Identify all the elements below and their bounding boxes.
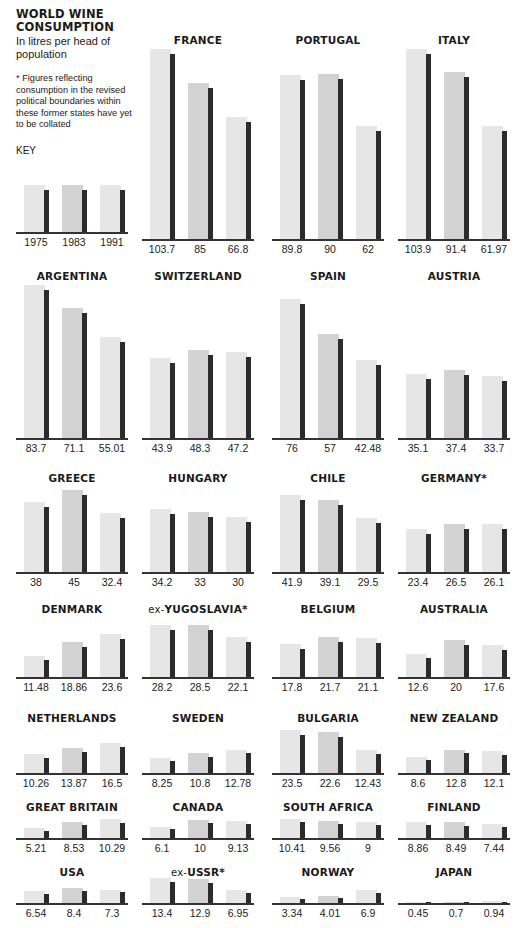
value-label: 13.4 [144,907,180,919]
value-label: 0.94 [476,907,512,919]
bar-shadow [170,882,175,903]
bar-1991 [226,890,247,903]
bar-shadow [82,891,87,903]
bar-1991 [356,890,377,903]
bar-shadow [208,883,213,903]
value-label: 3.34 [274,907,310,919]
bar-shadow [44,894,49,903]
country-title-name: USSR* [187,866,225,878]
country-panel-ex-ussr: ex-USSR*13.412.96.95 [142,0,254,928]
country-title-prefix: ex- [171,867,187,878]
country-panel-usa: USA6.548.47.3 [16,0,128,928]
value-label: 0.45 [400,907,436,919]
baseline [16,903,128,905]
value-label: 6.9 [350,907,386,919]
value-label: 7.3 [94,907,130,919]
bar-1991 [100,890,121,903]
bar-1975 [24,891,45,903]
bar-shadow [120,892,125,903]
value-label: 8.4 [56,907,92,919]
bar-1983 [318,896,339,903]
baseline [398,903,510,905]
country-panel-japan: JAPAN0.450.70.94 [398,0,510,928]
bar-1983 [188,879,209,903]
value-label: 6.95 [220,907,256,919]
country-panel-norway: NORWAY3.344.016.9 [272,0,384,928]
bar-shadow [246,893,251,903]
country-title: NORWAY [272,866,384,878]
bar-1975 [150,878,171,903]
baseline [142,903,254,905]
country-title: USA [16,866,128,878]
value-label: 12.9 [182,907,218,919]
value-label: 6.54 [18,907,54,919]
country-title: ex-USSR* [142,866,254,878]
value-label: 0.7 [438,907,474,919]
country-title: JAPAN [398,866,510,878]
baseline [272,903,384,905]
bar-1983 [62,888,83,903]
value-label: 4.01 [312,907,348,919]
bar-shadow [376,893,381,903]
